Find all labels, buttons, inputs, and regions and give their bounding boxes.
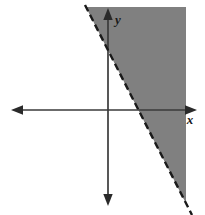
linear-inequality-graph: y x: [0, 0, 205, 215]
y-axis-arrow-down-icon: [103, 194, 112, 206]
y-axis-label: y: [113, 12, 121, 27]
x-axis-label: x: [186, 112, 194, 127]
graph-canvas: y x: [0, 0, 205, 215]
x-axis-arrow-left-icon: [11, 105, 23, 115]
